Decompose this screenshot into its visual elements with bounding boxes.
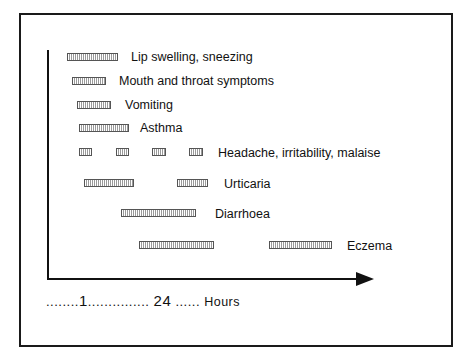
label-vomiting: Vomiting xyxy=(125,98,173,112)
x-axis-scale: ........1............... 24 ...... Hours xyxy=(46,292,240,309)
label-urticaria: Urticaria xyxy=(224,177,271,191)
bar-headache-3 xyxy=(152,148,166,156)
x-dots-mid: ............... xyxy=(88,294,150,309)
x-tick-24: 24 xyxy=(154,292,172,309)
bar-lip-swelling xyxy=(67,53,118,61)
bar-asthma xyxy=(79,124,129,132)
label-mouth-throat: Mouth and throat symptoms xyxy=(119,74,274,88)
x-dots-lead: ........ xyxy=(46,294,79,309)
bar-headache-4 xyxy=(189,148,203,156)
bar-urticaria-1 xyxy=(84,179,134,187)
x-axis-label: Hours xyxy=(204,295,240,309)
label-diarrhoea: Diarrhoea xyxy=(215,207,270,221)
x-axis-arrow-icon xyxy=(356,272,374,286)
bar-eczema-2 xyxy=(269,241,332,249)
bar-eczema-1 xyxy=(139,241,214,249)
label-eczema: Eczema xyxy=(347,239,392,253)
bar-urticaria-2 xyxy=(177,179,208,187)
x-tick-1: 1 xyxy=(79,292,88,309)
y-axis xyxy=(47,50,49,279)
bar-diarrhoea xyxy=(121,209,196,217)
label-lip-swelling: Lip swelling, sneezing xyxy=(131,50,253,64)
bar-vomiting xyxy=(77,101,111,109)
x-axis xyxy=(47,278,359,280)
x-dots-tail: ...... xyxy=(175,294,200,309)
label-asthma: Asthma xyxy=(140,121,182,135)
bar-mouth-throat xyxy=(72,77,106,85)
bar-headache-2 xyxy=(116,148,129,156)
bar-headache-1 xyxy=(79,148,92,156)
label-headache: Headache, irritability, malaise xyxy=(218,146,380,160)
